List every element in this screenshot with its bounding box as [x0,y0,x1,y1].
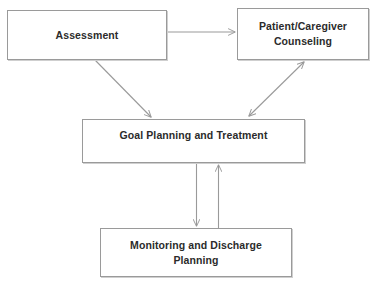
node-monitoring-and-discharge-planning[interactable]: Monitoring and Discharge Planning [100,228,292,277]
node-goal-planning-and-treatment[interactable]: Goal Planning and Treatment [82,119,305,163]
flowchart-diagram: Assessment Patient/Caregiver Counseling … [0,0,377,291]
node-goal-planning-and-treatment-label: Goal Planning and Treatment [115,128,273,143]
connector-hit-assessment-to-goal-planning[interactable] [90,56,160,124]
node-monitoring-line-2: Planning [173,254,218,266]
node-patient-caregiver-counseling-label: Patient/Caregiver Counseling [254,19,352,49]
connector-hit-goal-planning-to-counseling[interactable] [244,56,310,120]
node-counseling-line-2: Counseling [274,35,332,47]
node-monitoring-and-discharge-planning-label: Monitoring and Discharge Planning [125,238,267,268]
connector-hit-assessment-to-counseling[interactable] [165,25,241,39]
connector-hit-monitoring-to-goal-planning[interactable] [211,161,227,231]
node-assessment[interactable]: Assessment [7,10,167,60]
node-monitoring-line-1: Monitoring and Discharge [130,239,262,251]
connector-hit-goal-planning-to-monitoring[interactable] [189,161,205,231]
node-counseling-line-1: Patient/Caregiver [259,20,347,32]
node-patient-caregiver-counseling[interactable]: Patient/Caregiver Counseling [237,8,369,60]
node-assessment-label: Assessment [51,28,124,43]
